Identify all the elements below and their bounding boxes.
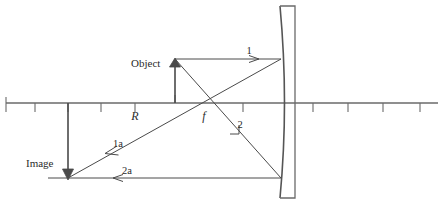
ray-2a-reflected [48, 175, 281, 182]
focal-point-label: f [202, 109, 207, 123]
object-label: Object [131, 57, 160, 69]
object-arrow [170, 58, 181, 103]
radius-of-curvature-label: R [130, 109, 139, 123]
ray-2-label: 2 [237, 119, 242, 130]
mirror-reflective-surface [280, 6, 285, 198]
ray-1-label: 1 [246, 45, 251, 56]
image-arrow [63, 103, 74, 180]
concave-mirror [280, 6, 295, 198]
ray-2-incident [175, 59, 281, 178]
optical-axis-group [6, 95, 438, 112]
ray-1a-label: 1a [113, 138, 123, 149]
optics-ray-diagram: Object Image f R 1 1a 2 2a [0, 0, 444, 206]
image-label: Image [26, 157, 54, 169]
diagram-canvas: Object Image f R 1 1a 2 2a [0, 0, 444, 206]
ray-2a-label: 2a [122, 165, 132, 176]
ray-1-incident [175, 56, 281, 63]
ray-2-line [175, 59, 281, 178]
